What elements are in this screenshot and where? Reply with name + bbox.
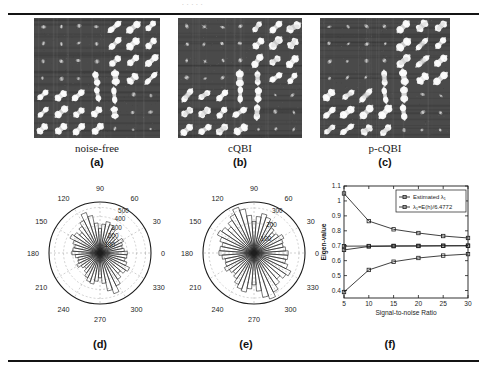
svg-text:0.4: 0.4 [332, 287, 341, 294]
svg-text:100: 100 [104, 241, 115, 248]
panel-caption-b: cQBI [178, 142, 302, 154]
svg-text:120: 120 [58, 194, 70, 203]
svg-text:300: 300 [131, 305, 143, 314]
glyph-field-svg-c [320, 18, 450, 138]
horizontal-rule-bottom [8, 360, 479, 362]
svg-text:270: 270 [94, 315, 106, 324]
svg-text:1: 1 [337, 197, 341, 204]
panel-sublabel-c: (c) [320, 156, 450, 168]
svg-text:15: 15 [390, 300, 398, 307]
horizontal-rule-top [8, 13, 479, 15]
polar-histogram-svg-d: 0306090120150180210240270300330100200300… [26, 176, 178, 332]
svg-text:180: 180 [27, 249, 39, 258]
figure-panel-grid: . . . . . noise-free cQBI p-cQBI (a) (b)… [0, 0, 487, 374]
svg-text:300: 300 [272, 207, 283, 214]
svg-text:330: 330 [153, 283, 165, 292]
svg-text:Signal-to-noise Ratio: Signal-to-noise Ratio [375, 309, 437, 317]
svg-text:λ₁=E(h)/6.4772: λ₁=E(h)/6.4772 [413, 204, 452, 210]
svg-text:25: 25 [440, 300, 448, 307]
svg-text:180: 180 [181, 249, 193, 258]
glyph-field-panel-a [34, 18, 160, 138]
svg-text:270: 270 [248, 315, 260, 324]
svg-text:0.9: 0.9 [332, 212, 341, 219]
svg-text:0.7: 0.7 [332, 242, 341, 249]
svg-text:30: 30 [153, 217, 161, 226]
line-chart-svg-f: 0.40.50.60.70.80.911.151015202530Signal-… [318, 176, 476, 332]
svg-text:150: 150 [35, 217, 47, 226]
glyph-field-svg-a [34, 18, 160, 138]
svg-text:0.6: 0.6 [332, 257, 341, 264]
svg-text:1.1: 1.1 [332, 182, 341, 189]
svg-text:10: 10 [365, 300, 373, 307]
svg-text:60: 60 [285, 194, 293, 203]
polar-histogram-e: 0306090120150180210240270300330100200300 [180, 176, 332, 332]
svg-text:200: 200 [266, 221, 277, 228]
panel-caption-a: noise-free [34, 142, 160, 154]
svg-text:330: 330 [307, 283, 319, 292]
svg-text:240: 240 [212, 305, 224, 314]
svg-text:0: 0 [161, 249, 165, 258]
svg-text:240: 240 [58, 305, 70, 314]
panel-sublabel-e: (e) [186, 338, 306, 350]
glyph-field-panel-b [178, 18, 302, 138]
svg-text:30: 30 [307, 217, 315, 226]
svg-text:300: 300 [111, 224, 122, 231]
panel-sublabel-a: (a) [34, 156, 160, 168]
svg-text:30: 30 [464, 300, 472, 307]
svg-text:90: 90 [96, 184, 104, 193]
glyph-field-svg-b [178, 18, 302, 138]
polar-histogram-d: 0306090120150180210240270300330100200300… [26, 176, 178, 332]
panel-sublabel-b: (b) [178, 156, 302, 168]
panel-sublabel-f: (f) [330, 338, 450, 350]
svg-text:300: 300 [285, 305, 297, 314]
svg-text:20: 20 [415, 300, 423, 307]
glyph-field-panel-c [320, 18, 450, 138]
svg-text:100: 100 [261, 235, 272, 242]
top-text-remnant: . . . . . [182, 0, 482, 7]
svg-text:200: 200 [108, 232, 119, 239]
line-chart-f: 0.40.50.60.70.80.911.151015202530Signal-… [318, 176, 476, 332]
svg-text:Eigen-value: Eigen-value [320, 223, 328, 260]
svg-text:210: 210 [189, 283, 201, 292]
panel-sublabel-d: (d) [40, 338, 160, 350]
svg-text:90: 90 [250, 184, 258, 193]
svg-text:0.5: 0.5 [332, 272, 341, 279]
svg-text:120: 120 [212, 194, 224, 203]
svg-text:Estimated λ₁: Estimated λ₁ [413, 194, 446, 200]
svg-text:150: 150 [189, 217, 201, 226]
svg-text:60: 60 [131, 194, 139, 203]
svg-text:400: 400 [115, 215, 126, 222]
polar-histogram-svg-e: 0306090120150180210240270300330100200300 [180, 176, 332, 332]
svg-text:0.8: 0.8 [332, 227, 341, 234]
svg-text:210: 210 [35, 283, 47, 292]
svg-text:500: 500 [118, 207, 129, 214]
panel-caption-c: p-cQBI [320, 142, 450, 154]
svg-text:5: 5 [342, 300, 346, 307]
